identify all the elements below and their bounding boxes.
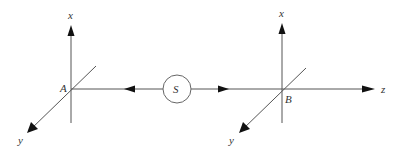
frame-a-y-axis — [30, 66, 96, 130]
frame-a: x y A — [17, 9, 96, 146]
frame-b-origin-label: B — [285, 93, 292, 105]
frame-b-x-arrowhead-icon — [279, 23, 286, 34]
source-label: S — [173, 83, 179, 95]
frame-a-origin-label: A — [59, 82, 67, 94]
frame-b: x y z B — [228, 7, 386, 146]
frame-a-x-label: x — [67, 9, 73, 21]
beam-to-a-arrowhead-icon — [124, 86, 135, 93]
frame-b-y-axis — [242, 68, 306, 130]
source-s: S — [163, 75, 191, 103]
diagram-canvas: x y A S x y z B — [0, 0, 396, 160]
frame-a-y-label: y — [17, 134, 23, 146]
frame-a-x-arrowhead-icon — [68, 25, 75, 36]
frame-b-z-label: z — [380, 83, 386, 95]
frame-b-z-arrowhead-icon — [362, 86, 375, 93]
beam-to-b-arrowhead-icon — [218, 86, 229, 93]
frame-b-y-label: y — [228, 134, 234, 146]
frame-b-x-label: x — [278, 7, 284, 19]
